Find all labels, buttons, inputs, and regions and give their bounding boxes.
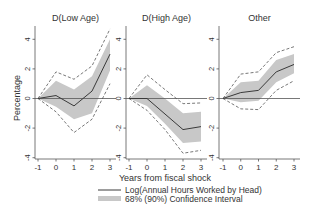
x-axis-label: Years from fiscal shock xyxy=(119,173,212,183)
y-tick-label: -2 xyxy=(207,125,216,132)
x-tick-label: 1 xyxy=(163,163,168,172)
y-tick-label: -2 xyxy=(23,125,32,132)
x-tick-label: 3 xyxy=(108,163,113,172)
figure: -4-2024-10123D(Low Age)-4-2024-10123D(Hi… xyxy=(0,0,312,214)
y-tick-label: 2 xyxy=(207,67,216,71)
panel-title: Other xyxy=(248,13,271,23)
x-tick-label: -1 xyxy=(219,163,227,172)
y-tick-label: -4 xyxy=(207,154,216,161)
legend: Log(Annual Hours Worked by Head) 68% (90… xyxy=(98,185,262,204)
plot-area xyxy=(126,75,207,153)
y-tick-label: 0 xyxy=(114,96,123,100)
panel-3: -4-2024-10123Other xyxy=(207,13,300,172)
panels: -4-2024-10123D(Low Age)-4-2024-10123D(Hi… xyxy=(23,13,300,172)
y-axis-label: Percentage xyxy=(12,75,22,121)
y-tick-label: -2 xyxy=(114,125,123,132)
x-tick-label: 2 xyxy=(274,163,279,172)
x-tick-label: 0 xyxy=(54,163,59,172)
panel-1: -4-2024-10123D(Low Age) xyxy=(23,13,116,172)
x-tick-label: 0 xyxy=(239,163,244,172)
plot-area xyxy=(35,29,116,133)
legend-band-label: 68% (90%) Confidence Interval xyxy=(125,194,243,204)
y-tick-label: 4 xyxy=(207,37,216,41)
x-tick-label: -1 xyxy=(34,163,42,172)
x-tick-label: 2 xyxy=(90,163,95,172)
panel-title: D(High Age) xyxy=(142,13,191,23)
x-tick-label: -1 xyxy=(125,163,133,172)
panel-2: -4-2024-10123D(High Age) xyxy=(114,13,207,172)
x-tick-label: 1 xyxy=(256,163,261,172)
y-tick-label: -4 xyxy=(23,154,32,161)
y-tick-label: 2 xyxy=(114,67,123,71)
x-tick-label: 3 xyxy=(292,163,297,172)
x-tick-label: 3 xyxy=(199,163,204,172)
y-tick-label: 0 xyxy=(23,96,32,100)
x-tick-label: 0 xyxy=(145,163,150,172)
x-tick-label: 2 xyxy=(181,163,186,172)
y-tick-label: -4 xyxy=(114,154,123,161)
y-tick-label: 4 xyxy=(23,37,32,41)
y-tick-label: 2 xyxy=(23,67,32,71)
chart-canvas: -4-2024-10123D(Low Age)-4-2024-10123D(Hi… xyxy=(0,0,312,214)
plot-area xyxy=(219,47,300,110)
y-tick-label: 4 xyxy=(114,37,123,41)
y-tick-label: 0 xyxy=(207,96,216,100)
panel-title: D(Low Age) xyxy=(52,13,99,23)
legend-band-swatch xyxy=(98,196,121,201)
x-tick-label: 1 xyxy=(72,163,77,172)
